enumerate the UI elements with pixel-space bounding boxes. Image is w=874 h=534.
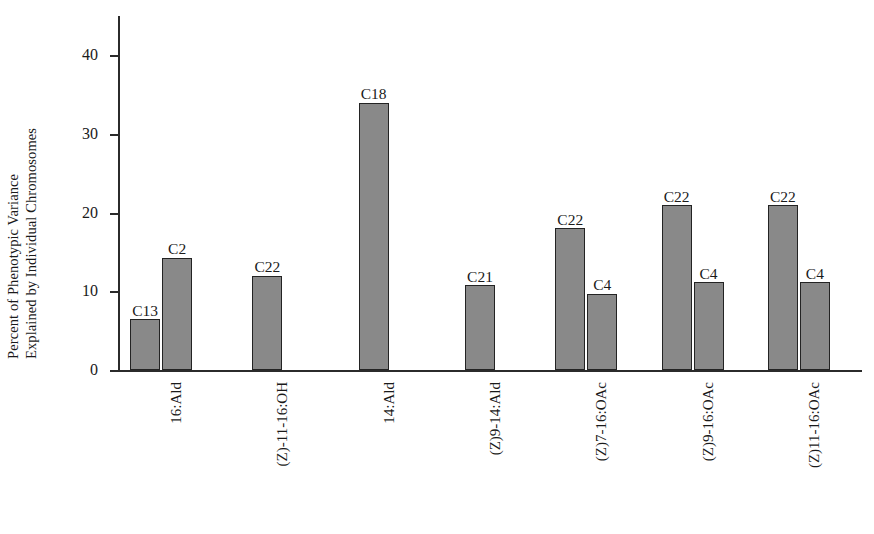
bar: C18: [359, 103, 389, 370]
bar: C22: [252, 276, 282, 370]
bar: C22: [768, 205, 798, 370]
bar-value-label: C4: [700, 266, 718, 282]
y-axis-tick: 10: [110, 291, 118, 293]
y-axis-tick: 20: [110, 213, 118, 215]
y-axis-tick: 40: [110, 55, 118, 57]
bar-value-label: C2: [168, 241, 186, 257]
bar: C4: [587, 294, 617, 370]
y-axis-tick: 30: [110, 134, 118, 136]
x-axis-tick-label: 16:Ald: [168, 382, 185, 424]
y-axis-title: Percent of Phenotypic Variance Explained…: [0, 0, 62, 375]
bar-value-label: C22: [770, 189, 796, 205]
bar: C13: [130, 319, 160, 370]
bar-value-label: C22: [255, 259, 281, 275]
bar-value-label: C18: [361, 86, 387, 102]
y-axis-tick-label: 30: [82, 125, 98, 143]
bar-chart-figure: Percent of Phenotypic Variance Explained…: [0, 0, 874, 534]
plot-area: 010203040 C13C2C22C18C21C22C4C22C4C22C4: [118, 16, 862, 372]
x-axis-tick-label: 14:Ald: [381, 382, 398, 424]
bar-value-label: C22: [557, 212, 583, 228]
bar: C4: [694, 282, 724, 370]
y-axis-tick-label: 10: [82, 282, 98, 300]
x-axis-tick-label: (Z)7-16:OAc: [593, 382, 610, 461]
bar-value-label: C13: [132, 303, 158, 319]
bar: C21: [465, 285, 495, 370]
y-axis-spine: [118, 16, 120, 372]
bar-value-label: C4: [593, 277, 611, 293]
x-axis-tick-label: (Z)11-16:OAc: [806, 382, 823, 468]
bar-value-label: C21: [467, 269, 493, 285]
y-axis-tick-label: 0: [90, 361, 98, 379]
bar: C2: [162, 258, 192, 370]
bar: C22: [555, 228, 585, 370]
y-axis-title-line-1: Percent of Phenotypic Variance: [5, 174, 22, 359]
y-axis-tick: 0: [110, 370, 118, 372]
x-axis-tick-label: (Z)-11-16:OH: [274, 382, 291, 466]
bar-value-label: C4: [806, 266, 824, 282]
bar: C22: [662, 205, 692, 370]
x-axis-tick-label: (Z)9-16:OAc: [700, 382, 717, 461]
y-axis-tick-label: 40: [82, 46, 98, 64]
y-axis-title-line-2: Explained by Individual Chromosomes: [23, 128, 40, 359]
bar-value-label: C22: [664, 189, 690, 205]
y-axis-tick-label: 20: [82, 203, 98, 221]
x-axis-tick-label: (Z)9-14:Ald: [487, 382, 504, 455]
bar: C4: [800, 282, 830, 370]
x-axis-baseline: [118, 370, 862, 372]
